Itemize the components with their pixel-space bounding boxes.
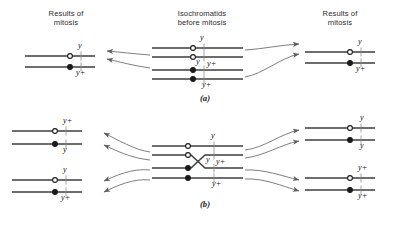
allele-label: y (358, 37, 362, 46)
panel-b-arrows-left (104, 133, 150, 192)
centromere-open (191, 46, 196, 51)
allele-label: y (200, 33, 204, 42)
centromere-open (68, 54, 73, 59)
allele-label: y+ (216, 157, 225, 166)
centromere-open (186, 144, 191, 149)
centromere-open (191, 55, 196, 60)
centromere-closed (53, 142, 58, 147)
panel-a-arrows-left (107, 51, 150, 68)
centromere-closed (53, 190, 58, 195)
allele-label: y (78, 41, 82, 50)
allele-label: y (196, 57, 200, 66)
centromere-open (186, 153, 191, 158)
centromere-open (53, 178, 58, 183)
centromere-closed (186, 176, 191, 181)
allele-label: y+ (61, 193, 70, 202)
allele-label: y+ (76, 68, 85, 77)
allele-label: y+ (356, 64, 365, 73)
panel-b-results-right (305, 124, 375, 195)
panel-a-arrows-right (245, 44, 299, 77)
allele-label: y (211, 131, 215, 140)
allele-label: y+ (202, 80, 211, 89)
panel-b (12, 124, 375, 197)
panel-b-arrows-right (245, 130, 299, 191)
centromere-closed (348, 188, 353, 193)
allele-label: y+ (212, 179, 221, 188)
allele-label: y (63, 145, 67, 154)
allele-label: y (360, 141, 364, 150)
allele-label: y+ (63, 116, 72, 125)
centromere-closed (191, 68, 196, 73)
allele-label: y (63, 165, 67, 174)
allele-label: y (360, 113, 364, 122)
centromere-open (348, 176, 353, 181)
centromere-closed (186, 166, 191, 171)
centromere-closed (68, 65, 73, 70)
centromere-open (53, 129, 58, 134)
centromere-closed (348, 138, 353, 143)
allele-label: y+ (358, 163, 367, 172)
centromere-closed (348, 61, 353, 66)
allele-label: y (206, 155, 210, 164)
allele-label: y+ (207, 59, 216, 68)
centromere-open (348, 126, 353, 131)
panel-b-center-chromatids (152, 142, 243, 183)
panel-b-results-left (12, 127, 82, 197)
allele-label: y+ (358, 191, 367, 200)
centromere-open (348, 50, 353, 55)
centromere-closed (191, 77, 196, 82)
